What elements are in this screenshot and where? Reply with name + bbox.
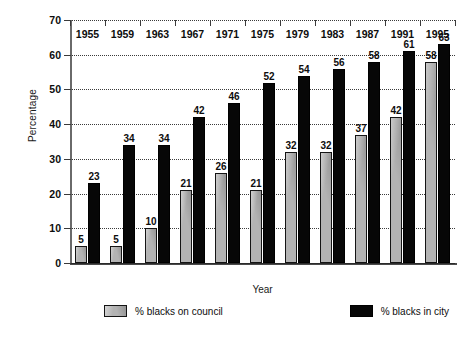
- bar-group: 2152: [250, 20, 276, 263]
- x-tick-mark: [175, 20, 176, 26]
- bar-council: 32: [285, 152, 298, 263]
- x-tick-mark: [210, 20, 211, 26]
- legend-label: % blacks on council: [135, 306, 223, 317]
- bar-value-label: 52: [263, 71, 274, 82]
- y-tick-label: 60: [49, 49, 61, 61]
- bar-value-label: 54: [298, 64, 309, 75]
- bar-value-label: 32: [320, 140, 331, 151]
- x-tick-mark: [140, 20, 141, 26]
- legend-entry: % blacks on council: [104, 305, 223, 317]
- bar-chart-figure: Percentage 010203040506070 5235341034214…: [0, 0, 469, 337]
- bar-group: 2142: [180, 20, 206, 263]
- bar-value-label: 42: [390, 105, 401, 116]
- x-tick-label: 1995: [426, 28, 449, 40]
- x-tick-mark: [245, 20, 246, 26]
- bar-group: 534: [110, 20, 136, 263]
- y-tick-label: 40: [49, 118, 61, 130]
- x-tick-label: 1979: [286, 28, 309, 40]
- y-tick-mark: [64, 55, 71, 56]
- bar-group: 3256: [320, 20, 346, 263]
- bar-council: 26: [215, 173, 228, 263]
- x-tick-label: 1959: [111, 28, 134, 40]
- x-tick-mark: [280, 20, 281, 26]
- x-tick-label: 1975: [251, 28, 274, 40]
- bar-value-label: 58: [368, 50, 379, 61]
- bar-value-label: 5: [113, 234, 119, 245]
- bar-value-label: 21: [180, 178, 191, 189]
- y-tick-label: 20: [49, 188, 61, 200]
- bar-council: 10: [145, 228, 158, 263]
- bar-value-label: 34: [123, 133, 134, 144]
- x-tick-mark: [455, 20, 456, 26]
- bar-city: 56: [333, 69, 346, 263]
- bar-value-label: 58: [425, 50, 436, 61]
- plot-area: 010203040506070 523534103421422646215232…: [70, 20, 455, 263]
- y-tick-mark: [64, 159, 71, 160]
- x-tick-label: 1983: [321, 28, 344, 40]
- x-tick-label: 1987: [356, 28, 379, 40]
- legend-entry: % blacks in city: [350, 305, 449, 317]
- bar-city: 52: [263, 83, 276, 264]
- bar-value-label: 61: [403, 39, 414, 50]
- bar-value-label: 10: [145, 216, 156, 227]
- y-tick-label: 30: [49, 153, 61, 165]
- x-tick-mark: [420, 20, 421, 26]
- bar-value-label: 46: [228, 91, 239, 102]
- bar-group: 1034: [145, 20, 171, 263]
- bar-group: 5863: [425, 20, 451, 263]
- y-tick-label: 0: [55, 257, 61, 269]
- bar-value-label: 23: [88, 171, 99, 182]
- legend-swatch-city-icon: [350, 305, 373, 317]
- bar-group: 523: [75, 20, 101, 263]
- bar-council: 32: [320, 152, 333, 263]
- y-tick-label: 50: [49, 83, 61, 95]
- bar-council: 58: [425, 62, 438, 263]
- legend-swatch-council-icon: [104, 305, 127, 317]
- bar-value-label: 32: [285, 140, 296, 151]
- bar-council: 42: [390, 117, 403, 263]
- bar-city: 58: [368, 62, 381, 263]
- x-tick-mark: [385, 20, 386, 26]
- bar-value-label: 37: [355, 123, 366, 134]
- bar-council: 5: [75, 246, 88, 263]
- x-tick-label: 1991: [391, 28, 414, 40]
- y-axis-title: Percentage: [27, 56, 38, 176]
- y-tick-mark: [64, 228, 71, 229]
- y-tick-mark: [64, 194, 71, 195]
- y-tick-label: 10: [49, 222, 61, 234]
- bar-city: 46: [228, 103, 241, 263]
- legend-label: % blacks in city: [381, 306, 449, 317]
- y-tick-mark: [64, 263, 71, 264]
- bar-group: 2646: [215, 20, 241, 263]
- x-tick-mark: [350, 20, 351, 26]
- y-tick-label: 70: [49, 14, 61, 26]
- x-axis-title: Year: [70, 284, 455, 295]
- bar-city: 42: [193, 117, 206, 263]
- bar-value-label: 26: [215, 161, 226, 172]
- x-tick-label: 1967: [181, 28, 204, 40]
- bar-value-label: 34: [158, 133, 169, 144]
- bar-council: 5: [110, 246, 123, 263]
- bar-group: 4261: [390, 20, 416, 263]
- bar-city: 34: [158, 145, 171, 263]
- bar-city: 54: [298, 76, 311, 263]
- bar-value-label: 56: [333, 57, 344, 68]
- x-tick-mark: [70, 20, 71, 26]
- bar-city: 61: [403, 51, 416, 263]
- bar-value-label: 42: [193, 105, 204, 116]
- x-tick-mark: [315, 20, 316, 26]
- bar-city: 34: [123, 145, 136, 263]
- bar-city: 63: [438, 44, 451, 263]
- bar-council: 21: [180, 190, 193, 263]
- bar-value-label: 21: [250, 178, 261, 189]
- x-tick-mark: [105, 20, 106, 26]
- bar-council: 37: [355, 135, 368, 263]
- gridline: [70, 263, 455, 264]
- bar-city: 23: [88, 183, 101, 263]
- bar-council: 21: [250, 190, 263, 263]
- bar-group: 3758: [355, 20, 381, 263]
- y-tick-mark: [64, 89, 71, 90]
- bar-value-label: 5: [78, 234, 84, 245]
- x-tick-label: 1955: [76, 28, 99, 40]
- x-tick-label: 1971: [216, 28, 239, 40]
